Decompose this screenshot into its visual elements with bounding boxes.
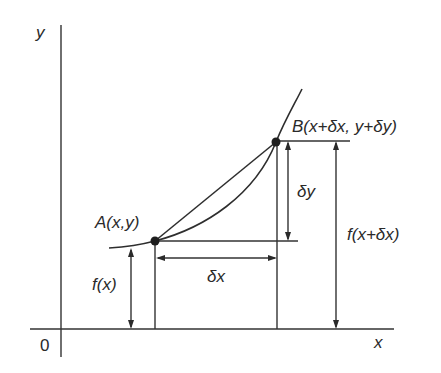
dy-dimension-arrow [285,141,291,241]
point-b-marker [272,138,281,147]
point-b-label: B(x+δx, y+δy) [292,117,397,136]
dy-label: δy [297,182,316,201]
origin-label: 0 [40,336,49,355]
dx-dimension-arrow [156,255,277,261]
x-axis-label: x [373,333,383,352]
dx-label: δx [207,267,225,286]
y-axis-label: y [35,23,46,42]
point-a-marker [151,237,160,246]
fxdx-dimension-arrow [333,141,339,329]
fx-dimension-arrow [128,248,134,329]
point-a-label: A(x,y) [94,213,139,232]
fx-label: f(x) [92,275,117,294]
chord-ab [155,142,276,241]
diagram-svg: y x 0 A(x,y) B(x+δx, y+δy) f(x) δx δy f(… [0,0,441,373]
diagram-canvas: y x 0 A(x,y) B(x+δx, y+δy) f(x) δx δy f(… [0,0,441,373]
fxdx-label: f(x+δx) [347,225,399,244]
